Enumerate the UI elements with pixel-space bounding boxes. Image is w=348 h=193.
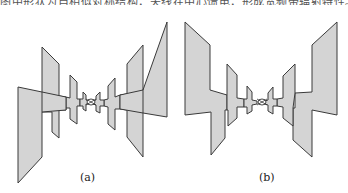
figure-a-left-second-arm [66,75,80,124]
figure-a-left-outer-arm [18,47,66,183]
figure-b-right-second-arm [277,64,295,126]
figure-b-right-third-arm [265,87,277,114]
figure-a-center-strip-right [120,90,143,113]
figure-b-caption: (b) [259,171,275,184]
figure-a-caption: (a) [80,171,95,184]
antenna-figures [0,0,348,193]
figure-a-right-second-arm [104,78,120,130]
figure-b-left-third-arm [244,86,257,114]
figure-b-antenna [185,22,337,157]
figure-b-left-second-arm [227,64,244,126]
figure-a-center-strip [42,92,66,112]
figure-b-left-outer-arm [185,22,227,155]
figure-a-antenna [18,22,167,183]
figure-b-right-outer-arm [293,22,337,157]
